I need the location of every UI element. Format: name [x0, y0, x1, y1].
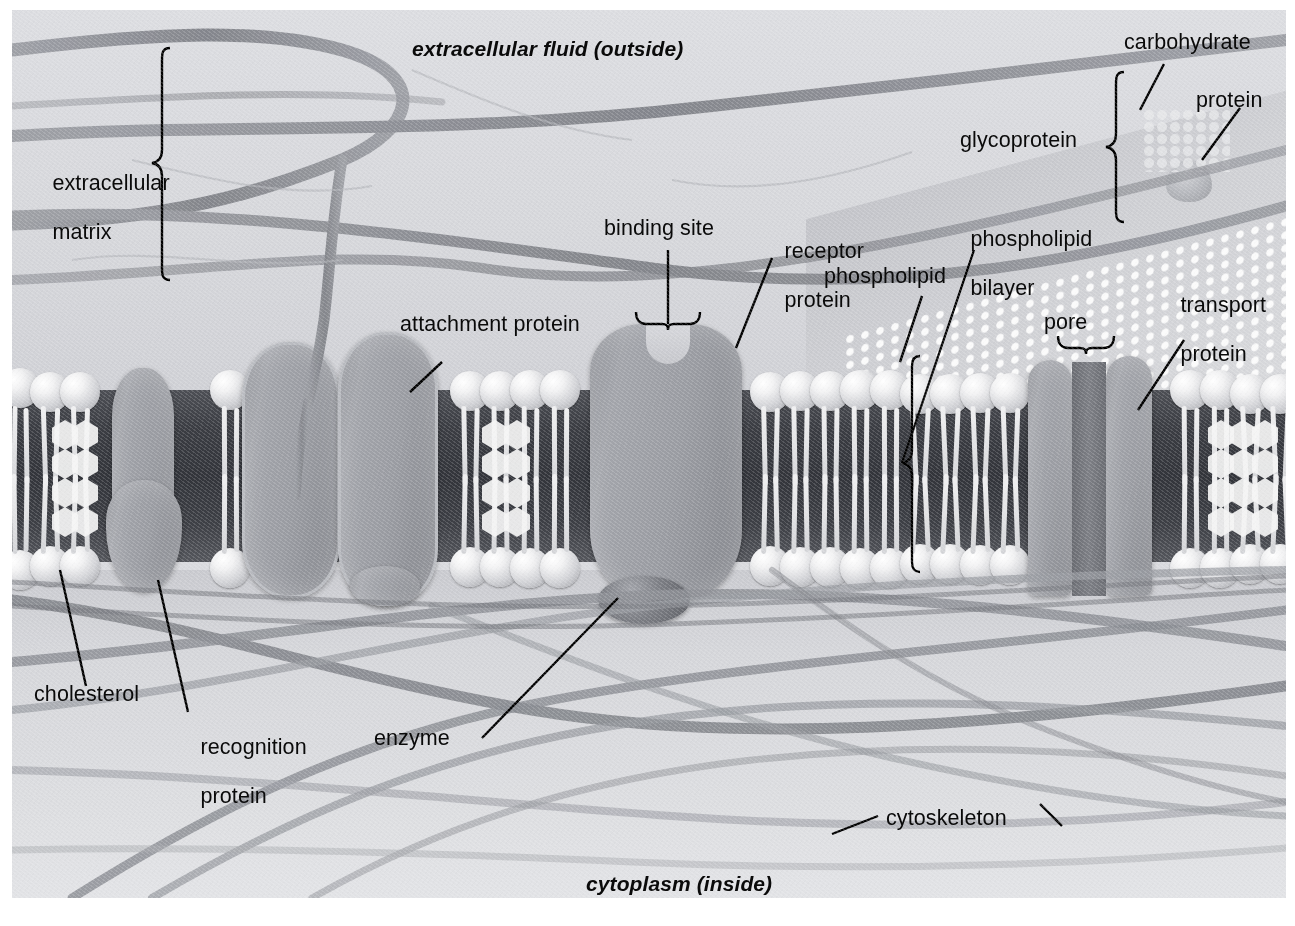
label-protein: protein	[1196, 88, 1262, 113]
label-binding-site: binding site	[604, 216, 714, 241]
label-phospholipid-bilayer: phospholipid bilayer	[934, 202, 1092, 325]
label-carbohydrate: carbohydrate	[1124, 30, 1251, 55]
label-extracellular-matrix-line2: matrix	[52, 220, 111, 244]
label-extracellular-matrix-line1: extracellular	[52, 171, 169, 195]
label-glycoprotein: glycoprotein	[960, 128, 1077, 153]
label-recognition-protein: recognition protein	[164, 710, 307, 833]
label-enzyme: enzyme	[374, 726, 450, 751]
region-label-inside: cytoplasm (inside)	[586, 872, 772, 897]
label-cholesterol: cholesterol	[34, 682, 139, 707]
label-transport-protein-line1: transport	[1180, 293, 1266, 317]
label-extracellular-matrix: extracellular matrix	[16, 146, 170, 269]
figure-canvas: extracellular fluid (outside) extracellu…	[0, 0, 1295, 926]
label-receptor-protein-line1: receptor	[784, 239, 864, 263]
label-recognition-protein-line2: protein	[200, 784, 266, 808]
label-receptor-protein-line2: protein	[784, 288, 850, 312]
label-phospholipid: phospholipid	[824, 264, 946, 289]
brace-pore	[1058, 336, 1114, 354]
extracellular-matrix-fibers	[12, 35, 1286, 496]
label-cytoskeleton: cytoskeleton	[886, 806, 1007, 831]
label-transport-protein: transport protein	[1144, 268, 1266, 391]
label-attachment-protein: attachment protein	[400, 312, 580, 337]
illustration-plate: extracellular fluid (outside) extracellu…	[12, 10, 1286, 898]
label-phospholipid-bilayer-line2: bilayer	[970, 276, 1034, 300]
region-label-outside: extracellular fluid (outside)	[412, 37, 683, 62]
label-transport-protein-line2: protein	[1180, 342, 1246, 366]
label-phospholipid-bilayer-line1: phospholipid	[970, 227, 1092, 251]
label-recognition-protein-line1: recognition	[200, 735, 306, 759]
label-pore: pore	[1044, 310, 1087, 335]
